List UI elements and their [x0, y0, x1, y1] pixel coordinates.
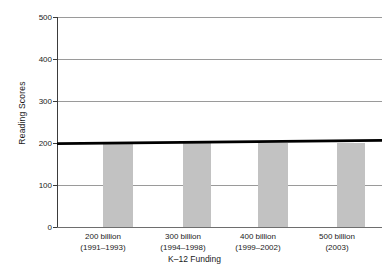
bar-1: [103, 143, 133, 227]
x-category-4-sublabel: (2003): [297, 242, 377, 253]
x-category-4-label: 500 billion: [319, 232, 355, 241]
bar-chart: Reading Scores 500 400 300 200 100 0 2: [0, 0, 389, 272]
gridline-500: [57, 17, 382, 18]
trend-line: [57, 137, 382, 147]
x-category-2-label: 300 billion: [165, 232, 201, 241]
x-category-3-label: 400 billion: [240, 232, 276, 241]
x-category-4: 500 billion (2003): [297, 231, 377, 253]
gridline-300: [57, 101, 382, 102]
x-axis-line: [57, 227, 382, 228]
x-category-1: 200 billion (1991–1993): [63, 231, 143, 253]
x-category-3-sublabel: (1999–2002): [218, 242, 298, 253]
y-tick-label-400: 400: [22, 55, 52, 64]
x-category-3: 400 billion (1999–2002): [218, 231, 298, 253]
x-category-1-sublabel: (1991–1993): [63, 242, 143, 253]
y-axis-title: Reading Scores: [17, 43, 27, 183]
bar-2: [183, 143, 211, 227]
gridline-400: [57, 59, 382, 60]
y-tick-label-500: 500: [22, 13, 52, 22]
y-tick-label-0: 0: [22, 223, 52, 232]
x-category-1-label: 200 billion: [85, 232, 121, 241]
y-tick-label-200: 200: [22, 139, 52, 148]
bar-3: [258, 143, 288, 227]
y-tick-label-100: 100: [22, 181, 52, 190]
x-category-2: 300 billion (1994–1998): [143, 231, 223, 253]
x-category-2-sublabel: (1994–1998): [143, 242, 223, 253]
bar-4: [337, 143, 365, 227]
y-tick-label-300: 300: [22, 97, 52, 106]
x-axis-title: K–12 Funding: [0, 254, 389, 264]
y-axis-line: [57, 17, 58, 228]
plot-area: [57, 17, 382, 227]
